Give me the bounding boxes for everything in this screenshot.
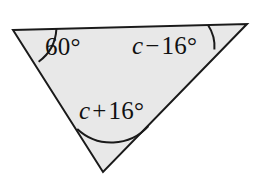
bottom-angle-variable: c xyxy=(79,97,90,124)
right-angle-degree-icon: ° xyxy=(187,32,197,59)
bottom-angle-operator: + xyxy=(90,97,108,124)
left-angle-label: 60° xyxy=(45,34,81,59)
triangle-figure: 60° c−16° c+16° xyxy=(0,0,257,181)
bottom-angle-value: 16 xyxy=(109,97,134,124)
bottom-angle-degree-icon: ° xyxy=(134,97,144,124)
right-angle-value: 16 xyxy=(162,32,187,59)
right-angle-operator: − xyxy=(143,32,161,59)
right-angle-label: c−16° xyxy=(132,33,197,58)
triangle-diagram-svg xyxy=(0,0,257,181)
bottom-angle-label: c+16° xyxy=(79,98,144,123)
left-angle-text: 60° xyxy=(45,33,81,60)
right-angle-variable: c xyxy=(132,32,143,59)
